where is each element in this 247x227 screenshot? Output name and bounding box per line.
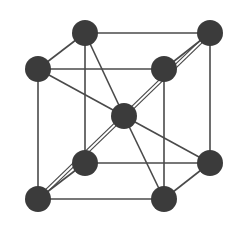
atom-back-top-right: [197, 20, 223, 46]
atom-front-top-right: [151, 56, 177, 82]
lattice-atoms: [25, 20, 223, 212]
atom-back-bottom-left: [72, 150, 98, 176]
edge-back-top-left-to-center: [85, 33, 124, 116]
edge-center-to-front-bottom-right: [124, 116, 164, 199]
atom-front-bottom-left: [25, 186, 51, 212]
atom-front-top-left: [25, 56, 51, 82]
bcc-lattice-diagram: [0, 0, 247, 227]
atom-back-bottom-right: [197, 150, 223, 176]
atom-center: [111, 103, 137, 129]
atom-front-bottom-right: [151, 186, 177, 212]
edge-front-top-left-to-center: [38, 69, 124, 116]
edge-center-to-back-bottom-right: [124, 116, 210, 163]
atom-back-top-left: [72, 20, 98, 46]
